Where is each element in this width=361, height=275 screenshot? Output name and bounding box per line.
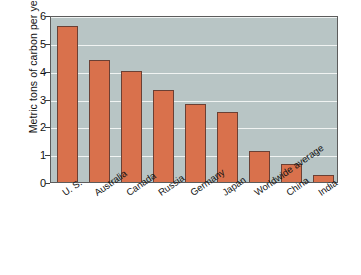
- y-axis-tick-label: 3: [20, 94, 46, 106]
- gridline: [51, 45, 337, 46]
- bar: [57, 26, 78, 182]
- y-axis-tick-label: 2: [20, 121, 46, 133]
- bar: [185, 104, 206, 182]
- bar: [89, 60, 110, 182]
- y-axis-tick-label: 5: [20, 38, 46, 50]
- bar: [153, 90, 174, 182]
- y-axis-tick-mark: [45, 183, 50, 184]
- y-axis-tick-label: 6: [20, 10, 46, 22]
- y-axis-tick-label: 4: [20, 66, 46, 78]
- bar: [121, 71, 142, 182]
- y-axis-title: Metric tons of carbon per year: [27, 0, 39, 157]
- y-axis-tick-label: 0: [20, 177, 46, 189]
- bar-chart-figure: Metric tons of carbon per year 0123456 U…: [0, 0, 361, 275]
- gridline: [51, 17, 337, 18]
- y-axis-tick-label: 1: [20, 149, 46, 161]
